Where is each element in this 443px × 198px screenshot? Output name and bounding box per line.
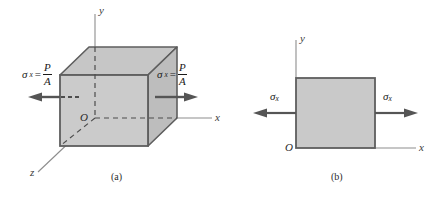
- panel-b-caption: (b): [331, 172, 343, 182]
- sigma-subscript: x: [275, 94, 278, 103]
- panel-a-right-stress-arrow-head: [184, 93, 198, 102]
- panel-b-left-stress-label: σx: [270, 91, 279, 103]
- sigma-subscript: x: [29, 71, 32, 79]
- panel-b-right-stress-arrow-head: [404, 109, 418, 118]
- plane-element-face: [296, 78, 375, 148]
- panel-a-z-axis-label: z: [30, 167, 34, 178]
- panel-b-right-stress-label: σx: [383, 91, 392, 103]
- fraction-numerator: P: [43, 62, 52, 74]
- panel-a-graphics: [0, 0, 443, 198]
- panel-b-origin-label: O: [285, 142, 293, 153]
- panel-a-right-stress-label: σx = P A: [157, 62, 187, 87]
- panel-a-left-stress-arrow-head: [28, 93, 42, 102]
- panel-a-caption: (a): [111, 172, 122, 182]
- sigma-symbol: σ: [157, 69, 162, 80]
- sigma-subscript: x: [164, 71, 167, 79]
- panel-a-y-axis-label: y: [99, 5, 104, 16]
- panel-a-x-axis-label: x: [215, 112, 220, 123]
- equals-sign: =: [170, 69, 176, 80]
- fraction-numerator: P: [178, 62, 187, 74]
- panel-b-y-axis-label: y: [300, 33, 305, 44]
- p-over-a-fraction: P A: [178, 62, 187, 87]
- p-over-a-fraction: P A: [43, 62, 52, 87]
- sigma-subscript: x: [388, 94, 391, 103]
- panel-b-x-axis-label: x: [419, 142, 424, 153]
- sigma-symbol: σ: [22, 69, 27, 80]
- panel-a-left-stress-label: σx = P A: [22, 62, 52, 87]
- panel-b-left-stress-arrow-head: [253, 109, 267, 118]
- fraction-denominator: A: [178, 75, 187, 87]
- equals-sign: =: [35, 69, 41, 80]
- stress-element-figure: y x z O σx = P A σx = P A (a) y x O σx σ…: [0, 0, 443, 198]
- fraction-denominator: A: [43, 75, 52, 87]
- panel-a-origin-label: O: [80, 112, 88, 123]
